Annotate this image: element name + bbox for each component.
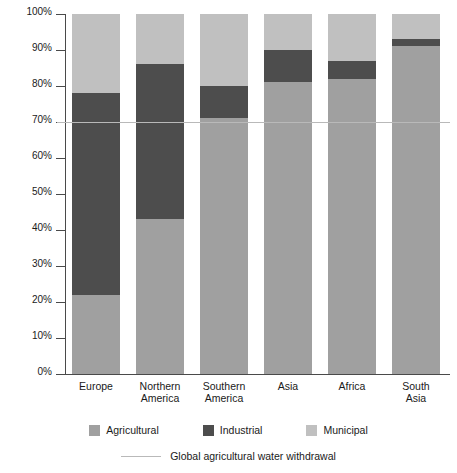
bar-segment-agricultural[interactable] xyxy=(200,118,248,374)
y-axis-tick-mark xyxy=(56,266,65,267)
y-axis-tick-label: 40% xyxy=(32,222,52,233)
bar-group[interactable] xyxy=(72,14,120,374)
y-axis-tick-label: 30% xyxy=(32,258,52,269)
bar-group[interactable] xyxy=(200,14,248,374)
bar-segment-agricultural[interactable] xyxy=(264,82,312,374)
x-axis-label-line: America xyxy=(188,392,260,404)
legend-label-industrial: Industrial xyxy=(220,424,263,436)
reference-line-tick xyxy=(57,122,66,123)
y-axis-tick-label: 50% xyxy=(32,186,52,197)
x-axis-line xyxy=(65,374,450,375)
x-axis-label-line: Asia xyxy=(380,392,452,404)
x-axis-label-europe: Europe xyxy=(60,380,132,392)
x-axis-label-south-asia: SouthAsia xyxy=(380,380,452,404)
bar-segment-industrial[interactable] xyxy=(264,50,312,82)
bar-segment-municipal[interactable] xyxy=(136,14,184,64)
legend-reference-line-row: Global agricultural water withdrawal xyxy=(0,450,457,462)
y-axis-tick-label: 0% xyxy=(38,366,52,377)
y-axis-tick-mark xyxy=(56,86,65,87)
y-axis-tick-label: 70% xyxy=(32,114,52,125)
bar-segment-agricultural[interactable] xyxy=(136,219,184,374)
bar-group[interactable] xyxy=(392,14,440,374)
x-axis-label-line: Europe xyxy=(60,380,132,392)
stacked-bar-chart: 0%10%20%30%40%50%60%70%80%90%100% Europe… xyxy=(0,0,457,473)
y-axis-tick-mark xyxy=(56,338,65,339)
y-axis-tick-mark xyxy=(56,194,65,195)
legend-item-agricultural[interactable]: Agricultural xyxy=(89,424,159,436)
bar-segment-municipal[interactable] xyxy=(392,14,440,39)
bar-segment-industrial[interactable] xyxy=(328,61,376,79)
bar-segment-municipal[interactable] xyxy=(200,14,248,86)
y-axis-ticks: 0%10%20%30%40%50%60%70%80%90%100% xyxy=(0,0,66,473)
x-axis-label-asia: Asia xyxy=(252,380,324,392)
y-axis-tick-label: 100% xyxy=(26,6,52,17)
x-axis-label-line: Asia xyxy=(252,380,324,392)
bar-segment-municipal[interactable] xyxy=(72,14,120,93)
legend-label-municipal: Municipal xyxy=(323,424,367,436)
bar-segment-municipal[interactable] xyxy=(264,14,312,50)
bar-group[interactable] xyxy=(264,14,312,374)
y-axis-tick-mark xyxy=(56,374,65,375)
y-axis-tick-mark xyxy=(56,158,65,159)
bar-segment-agricultural[interactable] xyxy=(392,46,440,374)
legend: AgriculturalIndustrialMunicipal xyxy=(0,424,457,436)
y-axis-tick-mark xyxy=(56,14,65,15)
x-axis-label-line: America xyxy=(124,392,196,404)
y-axis-tick-label: 90% xyxy=(32,42,52,53)
y-axis-tick-label: 10% xyxy=(32,330,52,341)
plot-area xyxy=(66,14,450,374)
bar-segment-industrial[interactable] xyxy=(200,86,248,118)
bar-segment-agricultural[interactable] xyxy=(72,295,120,374)
global-agricultural-water-withdrawal-line xyxy=(66,122,450,123)
bar-segment-agricultural[interactable] xyxy=(328,79,376,374)
bar-group[interactable] xyxy=(136,14,184,374)
legend-swatch-municipal xyxy=(306,425,317,436)
bar-segment-industrial[interactable] xyxy=(136,64,184,219)
legend-label-agricultural: Agricultural xyxy=(106,424,159,436)
x-axis-label-southern-america: SouthernAmerica xyxy=(188,380,260,404)
bar-segment-industrial[interactable] xyxy=(72,93,120,295)
x-axis-label-line: South xyxy=(380,380,452,392)
bar-group[interactable] xyxy=(328,14,376,374)
x-axis-label-line: Northern xyxy=(124,380,196,392)
legend-label-global-agricultural-water-withdrawal: Global agricultural water withdrawal xyxy=(170,450,336,462)
legend-item-industrial[interactable]: Industrial xyxy=(203,424,263,436)
legend-item-municipal[interactable]: Municipal xyxy=(306,424,367,436)
y-axis-tick-mark xyxy=(56,50,65,51)
bar-segment-municipal[interactable] xyxy=(328,14,376,61)
bar-segment-industrial[interactable] xyxy=(392,39,440,46)
y-axis-tick-mark xyxy=(56,230,65,231)
x-axis-label-africa: Africa xyxy=(316,380,388,392)
y-axis-tick-label: 80% xyxy=(32,78,52,89)
legend-swatch-industrial xyxy=(203,425,214,436)
x-axis-label-northern-america: NorthernAmerica xyxy=(124,380,196,404)
x-axis-label-line: Africa xyxy=(316,380,388,392)
legend-swatch-agricultural xyxy=(89,425,100,436)
x-axis-label-line: Southern xyxy=(188,380,260,392)
y-axis-tick-mark xyxy=(56,302,65,303)
legend-line-swatch xyxy=(121,456,161,457)
y-axis-tick-label: 20% xyxy=(32,294,52,305)
y-axis-tick-label: 60% xyxy=(32,150,52,161)
